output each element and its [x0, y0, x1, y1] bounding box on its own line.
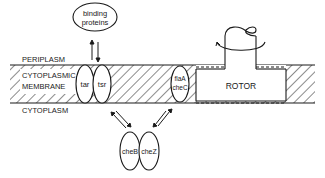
- periplasm-label: PERIPLASM: [22, 55, 65, 64]
- tar-label: tar: [81, 80, 90, 89]
- receptor-tsr: tsr: [93, 65, 111, 103]
- flaA-label: flaA: [174, 75, 186, 82]
- protein-cheB: cheB: [120, 132, 140, 170]
- membrane-label-line2: MEMBRANE: [22, 82, 65, 91]
- membrane-label-line1: CYTOPLASMIC: [22, 71, 76, 80]
- cheC-label: cheC: [172, 84, 187, 91]
- protein-cheZ: cheZ: [139, 132, 159, 170]
- cytoplasm-label: CYTOPLASM: [22, 106, 68, 115]
- cheZ-label: cheZ: [141, 148, 157, 155]
- rotor: ROTOR: [196, 65, 286, 103]
- binding-proteins-line2: proteins: [82, 18, 109, 27]
- rotor-label: ROTOR: [226, 81, 257, 91]
- cheZ-exchange-arrows-icon: [153, 109, 172, 127]
- flagellar-shaft: [225, 27, 256, 70]
- chemotaxis-diagram: ROTOR binding proteins PERIPLASM CYTOPLA…: [0, 0, 325, 178]
- cheB-exchange-arrows-icon: [111, 111, 131, 128]
- binding-proteins-line1: binding: [83, 9, 107, 18]
- binding-exchange-arrows-icon: [90, 40, 100, 62]
- cheB-label: cheB: [122, 148, 138, 155]
- receptor-tar: tar: [76, 65, 94, 103]
- tsr-label: tsr: [98, 80, 107, 89]
- switch-flaA-cheC: flaA cheC: [171, 66, 189, 102]
- binding-proteins: binding proteins: [73, 3, 117, 31]
